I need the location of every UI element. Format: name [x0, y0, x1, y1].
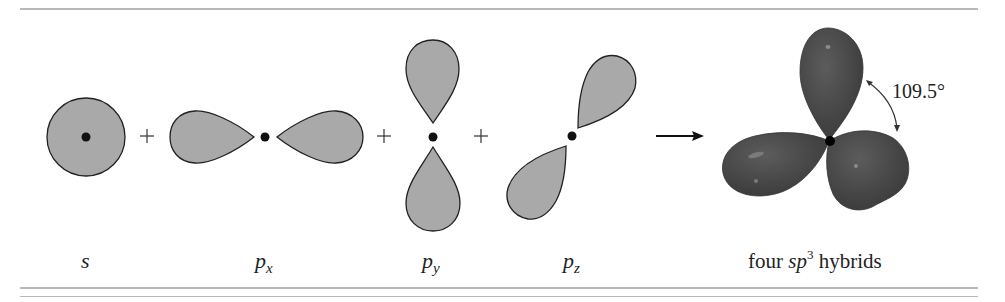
orbital-label-s: s	[81, 248, 90, 274]
plus-icon	[140, 129, 154, 143]
py-orbital-icon	[406, 40, 460, 231]
hybrid-caption: four sp3 hybrids	[748, 247, 882, 274]
bond-angle-label: 109.5°	[892, 80, 945, 103]
label-text: s	[81, 248, 90, 273]
orbital-label-px: px	[255, 248, 273, 277]
caption-suffix: hybrids	[813, 249, 881, 273]
s-orbital-icon	[47, 98, 125, 176]
caption-prefix: four	[748, 249, 788, 273]
orbital-label-pz: pz	[563, 248, 580, 277]
pz-orbital-icon	[507, 56, 636, 220]
label-text: p	[422, 248, 433, 273]
label-subscript: y	[433, 260, 440, 276]
label-subscript: x	[266, 260, 273, 276]
plus-icon	[377, 129, 391, 143]
label-text: p	[255, 248, 266, 273]
caption-italic: sp	[788, 249, 807, 273]
label-subscript: z	[574, 260, 580, 276]
arrow-icon	[656, 131, 704, 141]
px-orbital-icon	[170, 111, 363, 163]
plus-icon	[474, 129, 488, 143]
orbital-label-py: py	[422, 248, 440, 277]
sp3-hybrids-icon	[722, 28, 908, 210]
label-text: p	[563, 248, 574, 273]
